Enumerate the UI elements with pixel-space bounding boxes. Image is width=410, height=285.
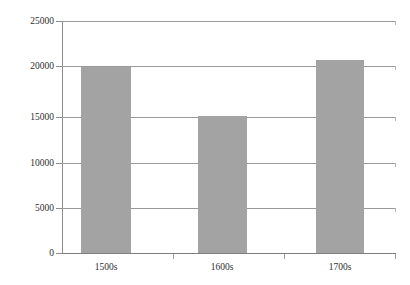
y-tick-label-5000: 5000 xyxy=(6,203,54,213)
x-tick-mark-1 xyxy=(173,254,174,259)
gridline-cap xyxy=(395,163,396,167)
gridline-cap xyxy=(395,208,396,212)
bar-1700s xyxy=(316,60,364,253)
plot-area xyxy=(62,21,395,253)
x-tick-label-1600s: 1600s xyxy=(211,261,234,273)
x-tick-label-1700s: 1700s xyxy=(329,261,352,273)
y-tick-label-20000: 20000 xyxy=(6,61,54,71)
bar-chart: 25000 20000 15000 10000 5000 0 1500s 160… xyxy=(0,0,410,285)
gridline-cap xyxy=(395,117,396,121)
y-tick-label-10000: 10000 xyxy=(6,158,54,168)
bar-1500s xyxy=(81,67,131,253)
x-axis-line xyxy=(62,253,396,254)
x-tick-label-1500s: 1500s xyxy=(95,261,118,273)
x-tick-mark-2 xyxy=(284,254,285,259)
y-tick-label-0: 0 xyxy=(6,248,54,258)
y-tick-label-25000: 25000 xyxy=(6,16,54,26)
gridline-25000 xyxy=(62,21,395,22)
y-tick-label-15000: 15000 xyxy=(6,112,54,122)
gridline-cap xyxy=(395,66,396,70)
gridline-cap xyxy=(395,21,396,25)
y-axis-tick-labels: 25000 20000 15000 10000 5000 0 xyxy=(0,0,54,285)
x-tick-mark-3 xyxy=(395,254,396,259)
bar-1600s xyxy=(198,116,247,253)
